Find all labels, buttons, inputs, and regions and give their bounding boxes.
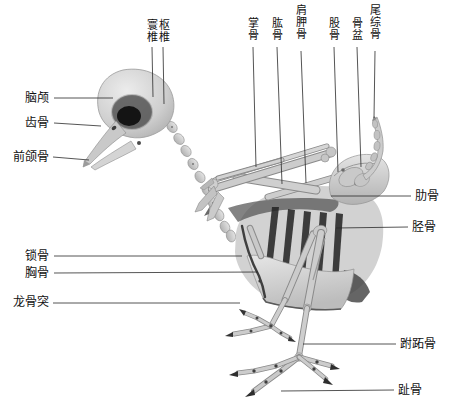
bird-skeleton-figure: 寰椎 枢椎 掌骨 肱骨 肩胛骨 股骨 骨盆 尾综骨 脑颅 齿骨 前颌骨 锁骨 胸…	[0, 0, 463, 415]
skeleton-illustration	[0, 0, 463, 415]
label-sternum: 胸骨	[0, 266, 49, 280]
label-pygostyle: 尾综骨	[369, 4, 381, 40]
label-axis: 枢椎	[158, 19, 170, 43]
leader-line-premaxilla	[53, 157, 89, 160]
label-tarsometatarsus: 跗跖骨	[400, 337, 436, 351]
label-clavicle: 锁骨	[0, 249, 49, 263]
label-pelvis: 骨盆	[351, 17, 363, 41]
label-braincase: 脑颅	[0, 91, 49, 105]
leader-line-metacarpus	[253, 47, 256, 167]
label-premaxilla: 前颌骨	[0, 150, 49, 164]
label-keel: 龙骨突	[0, 295, 49, 309]
label-tibia: 胫骨	[412, 220, 436, 234]
label-femur: 股骨	[328, 17, 340, 41]
label-ribs: 肋骨	[415, 189, 439, 203]
label-humerus: 肱骨	[271, 17, 283, 41]
leader-line-dentary	[54, 123, 101, 126]
pelvis-tail	[329, 116, 389, 204]
skull	[83, 69, 174, 170]
leader-line-pygostyle	[374, 51, 375, 118]
label-dentary: 齿骨	[0, 116, 49, 130]
leader-line-sternum	[54, 272, 258, 273]
label-metacarpus: 掌骨	[247, 17, 259, 41]
leader-line-phalanges	[281, 390, 394, 391]
label-phalanges: 趾骨	[398, 383, 422, 397]
label-atlas: 寰椎	[146, 19, 158, 43]
leader-line-pelvis	[357, 47, 361, 167]
label-scapula: 肩胛骨	[295, 4, 307, 40]
